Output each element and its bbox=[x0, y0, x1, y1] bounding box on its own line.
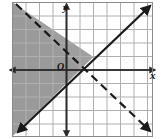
coordinate-plane-figure: y x O bbox=[0, 0, 161, 139]
y-axis-label: y bbox=[63, 2, 68, 13]
x-axis-label: x bbox=[150, 70, 156, 81]
graph-canvas bbox=[0, 0, 161, 139]
origin-label: O bbox=[57, 62, 64, 72]
